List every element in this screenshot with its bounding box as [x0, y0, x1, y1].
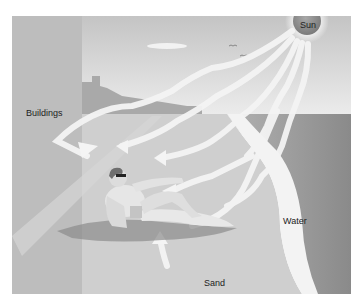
- sunglasses-icon: [116, 174, 126, 177]
- label-buildings: Buildings: [26, 108, 63, 118]
- label-water: Water: [283, 216, 307, 226]
- scene-graphic: [12, 16, 351, 294]
- label-sand: Sand: [204, 278, 225, 288]
- label-sun: Sun: [300, 20, 316, 30]
- cloud: [147, 43, 187, 49]
- sun-reflection-illustration: Buildings Sun Water Sand: [12, 16, 351, 294]
